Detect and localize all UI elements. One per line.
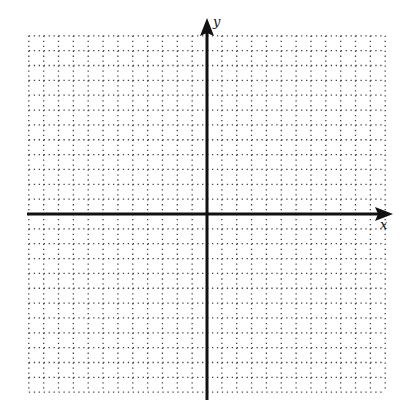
coordinate-plane: x y <box>0 0 407 418</box>
y-axis-label: y <box>212 14 221 29</box>
x-axis-label: x <box>380 217 388 232</box>
